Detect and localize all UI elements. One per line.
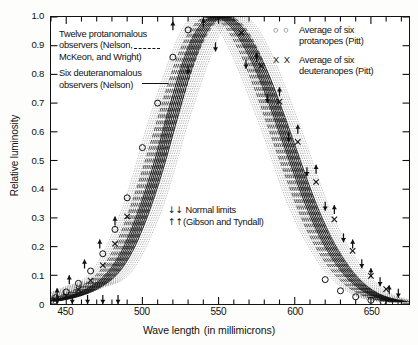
chart-root: { "chart_data": { "type": "line", "title… <box>0 0 418 345</box>
legend-left-entry2-line1: Six deuteranomalous <box>59 68 147 79</box>
y-tick-0.1: 0.1 <box>0 271 44 281</box>
legend-left: Twelve protanomalous observers (Nelson, … <box>59 29 147 91</box>
y-tick-0.5: 0.5 <box>0 156 44 166</box>
plot-area: Twelve protanomalous observers (Nelson, … <box>50 16 410 305</box>
legend-right-entry1: ○ ○ Average of six <box>273 25 373 36</box>
normal-limits-line1-text: Normal limits <box>185 205 235 215</box>
legend-left-entry2-line2: observers (Nelson) <box>59 80 147 91</box>
y-tick-0.7: 0.7 <box>0 98 44 108</box>
down-arrow-icon: ↓↓ <box>168 204 183 215</box>
x-tick-600: 600 <box>287 307 303 317</box>
normal-limits-line2-text: (Gibson and Tyndall) <box>183 217 264 227</box>
up-arrow-icon: ↑↑ <box>168 216 183 227</box>
legend-left-entry1-line2: observers (Nelson, <box>59 40 147 51</box>
legend-right-entry1-line2: protanopes (Pitt) <box>299 36 373 47</box>
y-tick-0.6: 0.6 <box>0 127 44 137</box>
y-axis-label: Relative luminosity <box>9 56 20 256</box>
legend-right: ○ ○ Average of six protanopes (Pitt) X X… <box>273 25 373 78</box>
x-tick-500: 500 <box>134 307 150 317</box>
circle-marker-icon: ○ ○ <box>273 25 299 36</box>
legend-right-entry2-line1: Average of six <box>299 55 354 66</box>
legend-right-entry2-line2: deuteranopes (Pitt) <box>299 66 373 77</box>
legend-right-entry2: X X Average of six <box>273 55 373 66</box>
x-axis-label-paren: (in millimicrons) <box>204 324 275 336</box>
x-axis-label: Wave length(in millimicrons) <box>0 324 418 336</box>
y-axis-tick-labels: 1.0 0.9 0.8 0.7 0.6 0.5 0.4 0.3 0.2 0.1 … <box>0 16 50 305</box>
normal-limits-line1: ↓↓ Normal limits <box>168 204 264 216</box>
legend-solid-line-sample <box>142 83 168 84</box>
legend-dashed-line-sample <box>134 48 160 49</box>
x-tick-650: 650 <box>364 307 380 317</box>
x-marker-icon: X X <box>273 55 299 66</box>
x-tick-550: 550 <box>211 307 227 317</box>
legend-left-entry1: Twelve protanomalous observers (Nelson, … <box>59 29 147 63</box>
legend-left-entry1-line1: Twelve protanomalous <box>59 29 147 40</box>
x-tick-450: 450 <box>57 307 73 317</box>
y-tick-0.9: 0.9 <box>0 40 44 50</box>
legend-left-entry2: Six deuteranomalous observers (Nelson) <box>59 68 147 91</box>
legend-right-entry1-line1: Average of six <box>299 25 354 36</box>
annotation-normal-limits: ↓↓ Normal limits ↑↑(Gibson and Tyndall) <box>168 204 264 228</box>
legend-left-entry1-line3: McKeon, and Wright) <box>59 52 147 63</box>
x-axis-label-main: Wave length <box>143 324 200 336</box>
y-tick-0: 0 <box>0 300 44 310</box>
normal-limits-line2: ↑↑(Gibson and Tyndall) <box>168 216 264 228</box>
y-tick-0.8: 0.8 <box>0 69 44 79</box>
y-tick-0.3: 0.3 <box>0 214 44 224</box>
y-tick-0.2: 0.2 <box>0 242 44 252</box>
y-tick-0.4: 0.4 <box>0 185 44 195</box>
y-tick-1.0: 1.0 <box>0 11 44 21</box>
